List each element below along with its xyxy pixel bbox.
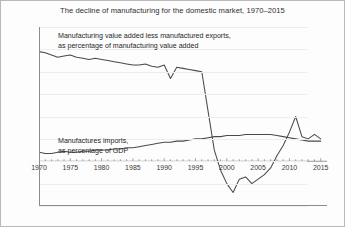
x-tick-label: 1975: [63, 164, 79, 171]
gridline-120: [39, 27, 307, 28]
x-tick-label: 2005: [250, 164, 266, 171]
lower-series-annotation-line1: Manufactures imports,: [58, 137, 128, 147]
chart-title: The decline of manufacturing for the dom…: [1, 6, 344, 15]
lower-series-annotation: Manufactures imports, as percentage of G…: [58, 137, 128, 156]
gridline-40: [39, 117, 307, 118]
x-tick-label: 2010: [282, 164, 298, 171]
x-tick-label: 2015: [313, 164, 329, 171]
upper-series-annotation: Manufacturing value added less manufactu…: [58, 32, 231, 51]
gridline-0: [39, 161, 307, 162]
x-tick-label: 1985: [125, 164, 141, 171]
gridlines: [39, 27, 327, 206]
x-axis-baseline: [39, 205, 327, 206]
lower-series-annotation-line2: as percentage of GDP: [58, 147, 128, 157]
gridline-60: [39, 94, 307, 95]
plot-wrapper: -40%-20%0%20%40%60%80%100%120% 197019751…: [39, 27, 327, 206]
gridline--20: [39, 184, 307, 185]
gridline--40: [39, 206, 307, 207]
x-tick-label: 1990: [156, 164, 172, 171]
x-tick-label: 2000: [219, 164, 235, 171]
upper-series-annotation-line2: as percentage of manufacturing value add…: [58, 42, 231, 52]
x-tick-label: 1970: [31, 164, 47, 171]
gridline-80: [39, 72, 307, 73]
chart-container: The decline of manufacturing for the dom…: [0, 0, 345, 227]
upper-series-annotation-line1: Manufacturing value added less manufactu…: [58, 32, 231, 42]
plot-area: -40%-20%0%20%40%60%80%100%120% 197019751…: [39, 27, 327, 206]
x-tick-label: 1980: [94, 164, 110, 171]
x-tick-label: 1995: [188, 164, 204, 171]
y-axis-line: [39, 27, 40, 206]
